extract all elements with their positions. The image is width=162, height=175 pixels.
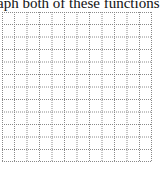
blank-graph-grid: [2, 12, 152, 162]
grid-lines: [2, 12, 152, 162]
question-text: aph both of these functions i: [0, 0, 162, 11]
